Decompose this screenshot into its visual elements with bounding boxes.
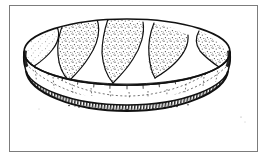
top-face-group <box>24 19 230 85</box>
line-drawing-figure <box>9 5 258 152</box>
drawing-canvas <box>9 5 258 152</box>
illustration-page: Line drawing of an oval disc-shaped wove… <box>0 0 269 159</box>
